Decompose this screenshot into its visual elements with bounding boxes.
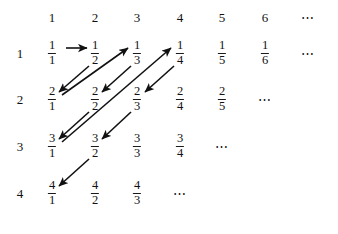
fraction-stack: 16 [261,39,269,67]
row-1-ellipsis: ⋯ [301,47,315,60]
fraction-3-over-1: 31 [48,132,56,160]
fraction-stack: 23 [133,85,141,113]
numerator: 2 [91,85,99,100]
numerator: 1 [133,39,141,54]
numerator: 1 [91,39,99,54]
denominator: 3 [133,54,141,68]
fraction-stack: 25 [218,85,226,113]
fraction-stack: 14 [176,39,184,67]
fraction-1-over-5: 15 [218,39,226,67]
arrow-1-2-to-2-1 [59,66,89,92]
numerator: 1 [48,39,56,54]
fraction-stack: 31 [48,132,56,160]
fraction-stack: 24 [176,85,184,113]
arrow-3-1-to-1-4 [62,48,171,142]
fraction-1-over-4: 14 [176,39,184,67]
numerator: 2 [48,85,56,100]
fraction-1-over-2: 12 [91,39,99,67]
column-header-5: 5 [219,11,226,24]
fraction-1-over-3: 13 [133,39,141,67]
denominator: 2 [91,147,99,161]
denominator: 4 [176,100,184,114]
numerator: 3 [176,132,184,147]
arrow-3-2-to-4-1 [59,159,89,186]
column-header-4: 4 [177,11,184,24]
numerator: 4 [48,179,56,194]
denominator: 3 [133,194,141,208]
fraction-1-over-6: 16 [261,39,269,67]
fraction-stack: 33 [133,132,141,160]
numerator: 3 [48,132,56,147]
denominator: 2 [91,194,99,208]
numerator: 2 [176,85,184,100]
denominator: 3 [133,147,141,161]
arrow-1-4-to-2-3 [145,66,174,92]
denominator: 4 [176,54,184,68]
row-3-ellipsis: ⋯ [215,140,229,153]
cantor-enumeration-figure: 123456⋯ 1234 111213141516⋯2122232425⋯313… [0,0,338,234]
numerator: 2 [133,85,141,100]
denominator: 1 [48,147,56,161]
row-label-2: 2 [17,93,24,106]
denominator: 4 [176,147,184,161]
column-header-6: 6 [262,11,269,24]
fraction-stack: 11 [48,39,56,67]
fraction-stack: 12 [91,39,99,67]
numerator: 1 [218,39,226,54]
fraction-2-over-4: 24 [176,85,184,113]
fraction-2-over-2: 22 [91,85,99,113]
fraction-3-over-3: 33 [133,132,141,160]
numerator: 4 [133,179,141,194]
numerator: 3 [133,132,141,147]
arrow-1-3-to-2-2 [102,66,131,92]
fraction-stack: 15 [218,39,226,67]
denominator: 1 [48,54,56,68]
fraction-2-over-1: 21 [48,85,56,113]
fraction-4-over-2: 42 [91,179,99,207]
fraction-stack: 22 [91,85,99,113]
denominator: 5 [218,100,226,114]
denominator: 2 [91,54,99,68]
row-label-4: 4 [17,187,24,200]
numerator: 1 [176,39,184,54]
fraction-3-over-2: 32 [91,132,99,160]
denominator: 2 [91,100,99,114]
row-4-ellipsis: ⋯ [173,187,187,200]
fraction-stack: 21 [48,85,56,113]
fraction-stack: 42 [91,179,99,207]
numerator: 1 [261,39,269,54]
denominator: 1 [48,100,56,114]
arrow-2-3-to-3-2 [102,112,131,139]
fraction-stack: 43 [133,179,141,207]
denominator: 3 [133,100,141,114]
column-header-1: 1 [49,11,56,24]
numerator: 3 [91,132,99,147]
fraction-2-over-3: 23 [133,85,141,113]
fraction-stack: 34 [176,132,184,160]
row-label-3: 3 [17,140,24,153]
fraction-1-over-1: 11 [48,39,56,67]
denominator: 5 [218,54,226,68]
column-header-2: 2 [92,11,99,24]
numerator: 2 [218,85,226,100]
row-label-1: 1 [17,47,24,60]
fraction-stack: 13 [133,39,141,67]
fraction-3-over-4: 34 [176,132,184,160]
denominator: 1 [48,194,56,208]
fraction-4-over-1: 41 [48,179,56,207]
denominator: 6 [261,54,269,68]
arrow-2-2-to-3-1 [59,112,89,139]
row-2-ellipsis: ⋯ [258,93,272,106]
column-header-7: ⋯ [301,11,315,24]
column-header-3: 3 [134,11,141,24]
fraction-stack: 32 [91,132,99,160]
fraction-2-over-5: 25 [218,85,226,113]
numerator: 4 [91,179,99,194]
fraction-4-over-3: 43 [133,179,141,207]
fraction-stack: 41 [48,179,56,207]
